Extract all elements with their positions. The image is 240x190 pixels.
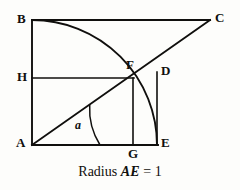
arc-angle-a (90, 105, 100, 145)
caption-suffix: = 1 (140, 164, 162, 179)
angle-label-a: a (75, 119, 81, 131)
caption-prefix: Radius (78, 164, 120, 179)
figure-caption: Radius AE = 1 (0, 164, 240, 179)
vertex-label-F: F (126, 58, 134, 71)
vertex-label-C: C (215, 11, 224, 24)
geometry-drawing (0, 0, 240, 190)
vertex-label-H: H (17, 70, 27, 83)
vertex-label-B: B (17, 12, 26, 25)
vertex-label-E: E (161, 136, 170, 149)
geometry-figure: B C H F D A G E a Radius AE = 1 (0, 0, 240, 190)
caption-emphasis: AE (121, 164, 140, 179)
vertex-label-D: D (161, 64, 170, 77)
vertex-label-A: A (16, 136, 25, 149)
arc-quarter-circle-BE (32, 20, 157, 145)
vertex-label-G: G (128, 147, 138, 160)
segment-AC-diagonal (32, 20, 210, 145)
